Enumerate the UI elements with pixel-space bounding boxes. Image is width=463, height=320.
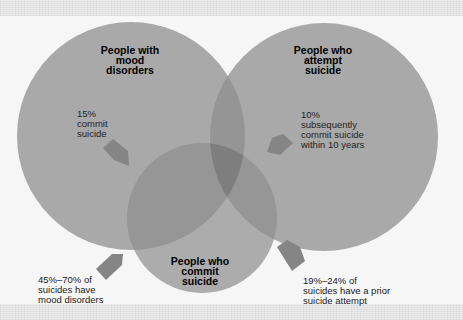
note-attempt-commit: 10% subsequently commit suicide within 1… (301, 110, 364, 150)
note-mood-commit: 15% commit suicide (77, 109, 108, 139)
label-attempt-suicide: People who attempt suicide (283, 45, 363, 75)
note-suicides-mood: 45%–70% of suicides have mood disorders (38, 275, 103, 305)
label-mood-disorders: People with mood disorders (90, 45, 170, 75)
label-commit-suicide: People who commit suicide (160, 256, 240, 286)
note-suicides-attempt: 19%–24% of suicides have a prior suicide… (303, 276, 390, 306)
